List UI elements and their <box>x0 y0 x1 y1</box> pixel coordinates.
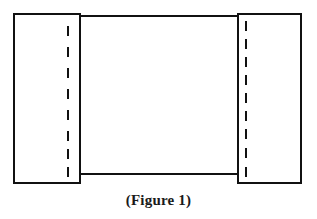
figure-caption: (Figure 1) <box>0 191 317 210</box>
figure-container: (Figure 1) <box>0 0 317 219</box>
figure-background <box>0 0 317 219</box>
figure-drawing <box>0 0 317 219</box>
